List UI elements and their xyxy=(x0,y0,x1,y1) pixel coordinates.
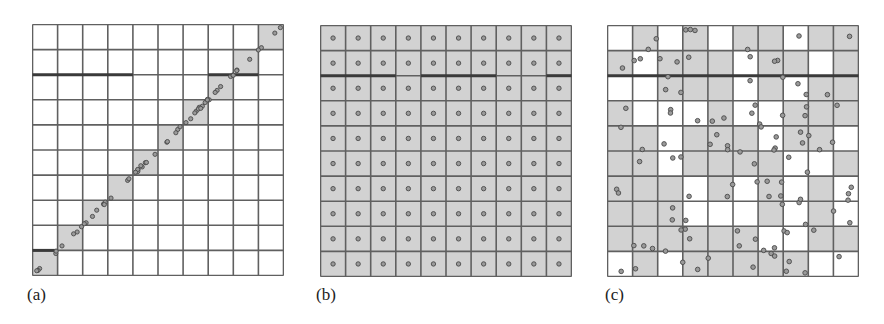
data-point xyxy=(431,262,435,266)
data-point xyxy=(619,269,624,274)
data-point xyxy=(406,36,410,40)
data-point xyxy=(235,69,239,73)
data-point xyxy=(798,197,803,202)
data-point xyxy=(381,262,385,266)
shaded-cell xyxy=(733,251,758,276)
data-point xyxy=(133,170,137,174)
data-point xyxy=(654,36,659,41)
data-point xyxy=(456,36,460,40)
data-point xyxy=(481,86,485,90)
data-point xyxy=(557,161,561,165)
data-point xyxy=(695,118,700,123)
data-point xyxy=(248,57,252,61)
data-point xyxy=(356,161,360,165)
shaded-cell xyxy=(758,76,783,101)
data-point xyxy=(127,177,131,181)
shaded-cell xyxy=(833,226,858,251)
data-point xyxy=(765,179,770,184)
shaded-cell xyxy=(833,76,858,101)
shaded-cell xyxy=(633,251,658,276)
data-point xyxy=(456,186,460,190)
data-point xyxy=(481,161,485,165)
data-point xyxy=(679,155,684,160)
data-point xyxy=(231,73,235,77)
data-point xyxy=(456,237,460,241)
data-point xyxy=(532,161,536,165)
data-point xyxy=(797,34,802,39)
data-point xyxy=(687,194,692,199)
data-point xyxy=(695,267,700,272)
data-point xyxy=(481,136,485,140)
data-point xyxy=(778,194,783,199)
data-point xyxy=(356,262,360,266)
shaded-cell xyxy=(758,201,783,226)
data-point xyxy=(772,254,777,259)
data-point xyxy=(331,237,335,241)
data-point xyxy=(481,262,485,266)
shaded-cell xyxy=(783,126,808,151)
data-point xyxy=(637,159,642,164)
data-point xyxy=(406,212,410,216)
data-point xyxy=(803,222,808,227)
data-point xyxy=(687,236,692,241)
data-point xyxy=(109,196,113,200)
shaded-cell xyxy=(608,201,633,226)
data-point xyxy=(679,228,684,233)
data-point xyxy=(532,111,536,115)
shaded-cell xyxy=(708,226,733,251)
shaded-cell xyxy=(683,251,708,276)
data-point xyxy=(787,259,792,264)
data-point xyxy=(755,180,760,185)
data-point xyxy=(817,147,822,152)
shaded-cell xyxy=(683,151,708,176)
data-point xyxy=(532,212,536,216)
data-point xyxy=(456,86,460,90)
shaded-cell xyxy=(683,126,708,151)
data-point xyxy=(767,194,772,199)
data-point xyxy=(662,142,667,147)
shaded-cell xyxy=(658,76,683,101)
shaded-cell xyxy=(808,201,833,226)
shaded-cell xyxy=(608,151,633,176)
shaded-cell xyxy=(733,126,758,151)
data-point xyxy=(805,170,810,175)
data-point xyxy=(532,262,536,266)
data-point xyxy=(532,36,536,40)
data-point xyxy=(800,141,805,146)
data-point xyxy=(663,87,668,92)
data-point xyxy=(139,164,143,168)
data-point xyxy=(199,106,203,110)
data-point xyxy=(679,90,684,95)
data-point xyxy=(406,86,410,90)
data-point xyxy=(532,136,536,140)
data-point xyxy=(331,61,335,65)
shaded-cell xyxy=(783,51,808,76)
data-point xyxy=(219,84,223,88)
data-point xyxy=(848,220,853,225)
data-point xyxy=(381,186,385,190)
data-point xyxy=(35,269,39,273)
data-point xyxy=(153,152,157,156)
data-point xyxy=(507,186,511,190)
data-point xyxy=(658,56,663,61)
data-point xyxy=(835,103,840,108)
data-point xyxy=(331,262,335,266)
data-point xyxy=(481,237,485,241)
shaded-cell xyxy=(633,201,658,226)
shaded-cell xyxy=(608,226,633,251)
data-point xyxy=(144,160,148,164)
data-point xyxy=(381,212,385,216)
data-point xyxy=(54,249,58,253)
data-point xyxy=(557,136,561,140)
grid-a xyxy=(32,24,284,276)
data-point xyxy=(825,92,830,97)
panel-a xyxy=(32,24,284,276)
data-point xyxy=(670,156,675,161)
shaded-cell xyxy=(758,151,783,176)
data-point xyxy=(804,92,809,97)
data-point xyxy=(193,111,197,115)
data-point xyxy=(205,98,209,102)
data-point xyxy=(331,186,335,190)
data-point xyxy=(846,198,851,203)
data-point xyxy=(90,214,94,218)
